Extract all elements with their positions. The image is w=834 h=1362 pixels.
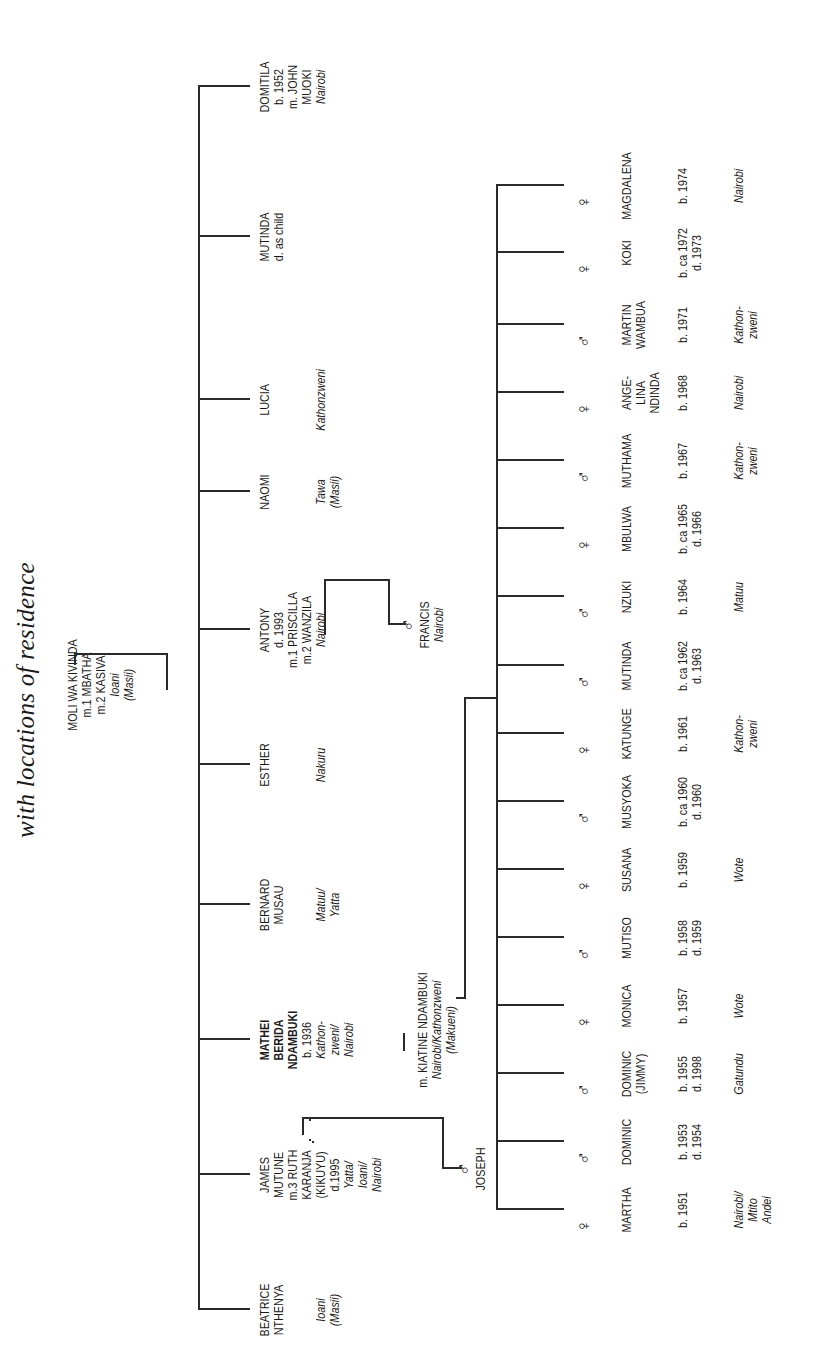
child-location: Kathon- zweni bbox=[732, 696, 760, 772]
ancestor-marriage-1: m.1 MBATHA bbox=[80, 595, 94, 776]
child-name: KATUNGE bbox=[620, 696, 634, 772]
child-name: MUTINDA bbox=[620, 628, 634, 704]
child-dates: b. 1955 d. 1998 bbox=[676, 1036, 704, 1112]
spouse-location: Nairobi/Kathonzweni (Makueni) bbox=[430, 953, 458, 1108]
sibling-detail: b. 1936 bbox=[300, 997, 314, 1083]
sibling-location: Yatta/ Ioani/ Nairobi bbox=[342, 1128, 384, 1223]
spouse-children-connector bbox=[464, 697, 496, 699]
sibling-location: Tawa (Masii) bbox=[314, 449, 342, 535]
child-dates: b. 1971 bbox=[676, 287, 690, 363]
child-name: MBULWA bbox=[620, 491, 634, 567]
sibling-tick-4 bbox=[198, 763, 250, 765]
mathei-spouse-node: m. KIATINE NDAMBUKI Nairobi/Kathonzweni … bbox=[416, 953, 458, 1108]
child-dates: b. ca 1962 d. 1963 bbox=[676, 628, 704, 704]
child-dates: b. 1967 bbox=[676, 423, 690, 499]
francis-name: FRANCIS bbox=[418, 586, 432, 663]
francis-location: Nairobi bbox=[432, 586, 446, 663]
sibling-tick-7 bbox=[198, 398, 250, 400]
child-name: ANGE- LINA NDINDA bbox=[620, 355, 662, 431]
sibling-name: ESTHER bbox=[258, 722, 272, 808]
sibling-detail bbox=[286, 862, 314, 948]
james-child-connector bbox=[312, 1141, 314, 1143]
child-dates: b. ca 1960 d. 1960 bbox=[676, 764, 704, 840]
sibling-name: MATHEI BERIDA NDAMBUKI bbox=[258, 997, 300, 1083]
female-symbol-icon: ♀ bbox=[574, 190, 593, 214]
child-name: MAGDALENA bbox=[620, 148, 634, 224]
sibling-node-mutinda: MUTINDA d. as child bbox=[258, 194, 286, 280]
sibling-tick-6 bbox=[198, 490, 250, 492]
sibling-name: BERNARD MUSAU bbox=[258, 862, 286, 948]
female-symbol-icon: ♀ bbox=[574, 874, 593, 898]
sibling-node-james: JAMES MUTUNE m.3 RUTH KARANJA (KIKUYU) d… bbox=[258, 1128, 384, 1223]
child-dates: b. 1958 d. 1959 bbox=[676, 900, 704, 976]
children-bar bbox=[496, 184, 498, 1210]
child-name: DOMINIC bbox=[620, 1104, 634, 1180]
sibling-name: MUTINDA bbox=[258, 194, 272, 280]
ancestor-name: MOLI WA KIVINDA bbox=[66, 595, 80, 776]
child-tick bbox=[496, 664, 564, 666]
james-joseph-v bbox=[302, 1117, 442, 1119]
child-name: SUSANA bbox=[620, 832, 634, 908]
spouse-children-connector bbox=[464, 697, 466, 999]
child-name: MARTIN WAMBUA bbox=[620, 287, 648, 363]
child-tick bbox=[496, 251, 564, 253]
child-name: MUTISO bbox=[620, 900, 634, 976]
child-tick bbox=[496, 595, 564, 597]
child-location: Matuu bbox=[732, 559, 746, 635]
sibling-tick-2 bbox=[198, 1038, 250, 1040]
child-tick bbox=[496, 323, 564, 325]
sibling-detail bbox=[272, 722, 314, 808]
sibling-tick-1 bbox=[198, 1173, 250, 1175]
sibling-node-mathei: MATHEI BERIDA NDAMBUKI b. 1936 Kathon- z… bbox=[258, 997, 356, 1083]
sibling-name: LUCIA bbox=[258, 357, 272, 443]
mathei-marriage-tick bbox=[403, 1033, 405, 1051]
child-tick bbox=[496, 527, 564, 529]
sibling-location: Matuu/ Yatta bbox=[314, 862, 342, 948]
child-name: MARTHA bbox=[620, 1172, 634, 1248]
antony-francis-bottom bbox=[388, 579, 390, 625]
joseph-link bbox=[442, 1117, 444, 1169]
james-joseph-top bbox=[302, 1117, 304, 1135]
child-dates: b. 1968 bbox=[676, 355, 690, 431]
sibling-location: Nairobi bbox=[314, 44, 328, 130]
sibling-node-esther: ESTHER Nakuru bbox=[258, 722, 328, 808]
sibling-bar bbox=[198, 86, 200, 1310]
sibling-node-bernard: BERNARD MUSAU Matuu/ Yatta bbox=[258, 862, 342, 948]
joseph-male-symbol: ♂ bbox=[454, 1157, 473, 1181]
child-dates: b. 1974 bbox=[676, 148, 690, 224]
sibling-location: Kathonzweni bbox=[314, 357, 328, 443]
james-child-connector bbox=[309, 1119, 311, 1121]
child-location: Kathon- zweni bbox=[732, 287, 760, 363]
child-dates: b. 1951 bbox=[676, 1172, 690, 1248]
child-location: Nairobi/ Mtito Andei bbox=[732, 1172, 774, 1248]
child-dates: b. 1959 bbox=[676, 832, 690, 908]
sibling-detail: d. 1993 m.1 PRISCILLA m.2 WANZILA bbox=[272, 578, 314, 681]
sibling-detail bbox=[286, 1267, 314, 1353]
sibling-tick-9 bbox=[198, 85, 250, 87]
ancestor-connector bbox=[74, 653, 168, 655]
child-name: DOMINIC (JIMMY) bbox=[620, 1036, 648, 1112]
child-tick bbox=[496, 1208, 564, 1210]
female-symbol-icon: ♀ bbox=[574, 257, 593, 281]
child-location: Gatundu bbox=[732, 1036, 746, 1112]
child-name: NZUKI bbox=[620, 559, 634, 635]
sibling-node-antony: ANTONY d. 1993 m.1 PRISCILLA m.2 WANZILA… bbox=[258, 578, 328, 681]
child-tick bbox=[496, 800, 564, 802]
sibling-detail: m.3 RUTH KARANJA (KIKUYU) d.1995 bbox=[286, 1128, 342, 1223]
child-location: Nairobi bbox=[732, 355, 746, 431]
sibling-tick-5 bbox=[198, 628, 250, 630]
male-symbol-icon: ♂ bbox=[574, 1078, 593, 1102]
male-symbol-icon: ♂ bbox=[574, 465, 593, 489]
francis-male-symbol: ♂ bbox=[398, 613, 417, 637]
sibling-location: Kathon- zweni/ Nairobi bbox=[314, 997, 356, 1083]
child-name: MUSYOKA bbox=[620, 764, 634, 840]
child-dates: b. ca 1972 d. 1973 bbox=[676, 215, 704, 291]
child-location: Nairobi bbox=[732, 148, 746, 224]
child-location: Wote bbox=[732, 832, 746, 908]
child-tick bbox=[496, 391, 564, 393]
sibling-location: Ioani (Masii) bbox=[314, 1267, 342, 1353]
child-dates: b. 1964 bbox=[676, 559, 690, 635]
ancestor-connector bbox=[166, 653, 168, 690]
sibling-tick-0 bbox=[198, 1308, 250, 1310]
joseph-name: JOSEPH bbox=[474, 1130, 488, 1207]
